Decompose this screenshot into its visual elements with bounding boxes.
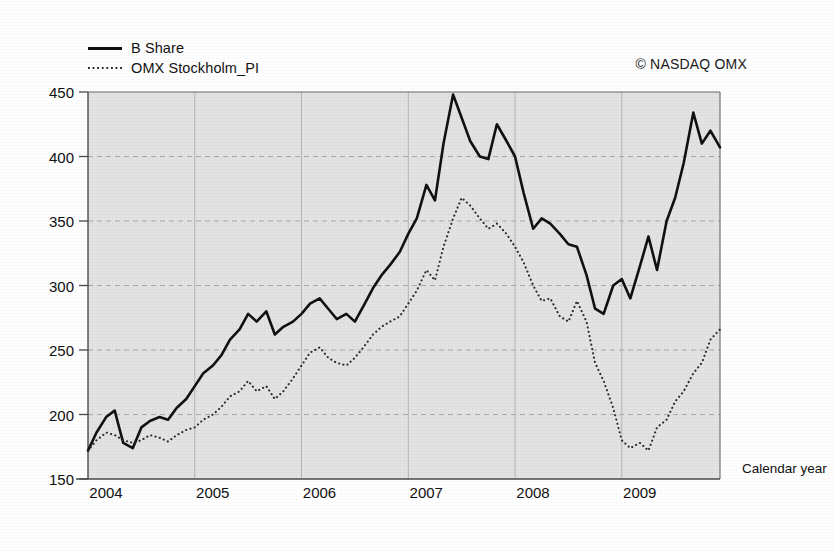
y-tick-label: 200 bbox=[28, 406, 74, 423]
x-tick-label: 2004 bbox=[89, 484, 122, 501]
legend-label-b-share: B Share bbox=[131, 39, 184, 58]
x-axis-title: Calendar year bbox=[742, 461, 827, 476]
chart-plot-area bbox=[0, 0, 833, 551]
y-tick-label: 300 bbox=[28, 277, 74, 294]
y-tick-label: 450 bbox=[28, 84, 74, 101]
y-axis-tick-labels: 150200250300350400450 bbox=[0, 0, 74, 551]
stock-price-chart: B Share OMX Stockholm_PI © NASDAQ OMX 15… bbox=[0, 0, 833, 551]
chart-legend: B Share OMX Stockholm_PI bbox=[88, 38, 259, 78]
y-tick-label: 250 bbox=[28, 342, 74, 359]
legend-swatch-dotted-line-icon bbox=[88, 62, 122, 74]
x-tick-label: 2006 bbox=[303, 484, 336, 501]
x-tick-label: 2005 bbox=[196, 484, 229, 501]
legend-label-omx-stockholm-pi: OMX Stockholm_PI bbox=[131, 59, 259, 78]
y-tick-label: 350 bbox=[28, 213, 74, 230]
legend-swatch-solid-line-icon bbox=[88, 42, 122, 54]
y-tick-label: 400 bbox=[28, 148, 74, 165]
y-tick-label: 150 bbox=[28, 471, 74, 488]
chart-attribution: © NASDAQ OMX bbox=[635, 56, 747, 72]
legend-item-b-share: B Share bbox=[88, 38, 259, 58]
legend-item-omx-stockholm-pi: OMX Stockholm_PI bbox=[88, 58, 259, 78]
x-tick-label: 2009 bbox=[623, 484, 656, 501]
x-tick-label: 2007 bbox=[410, 484, 443, 501]
x-tick-label: 2008 bbox=[516, 484, 549, 501]
